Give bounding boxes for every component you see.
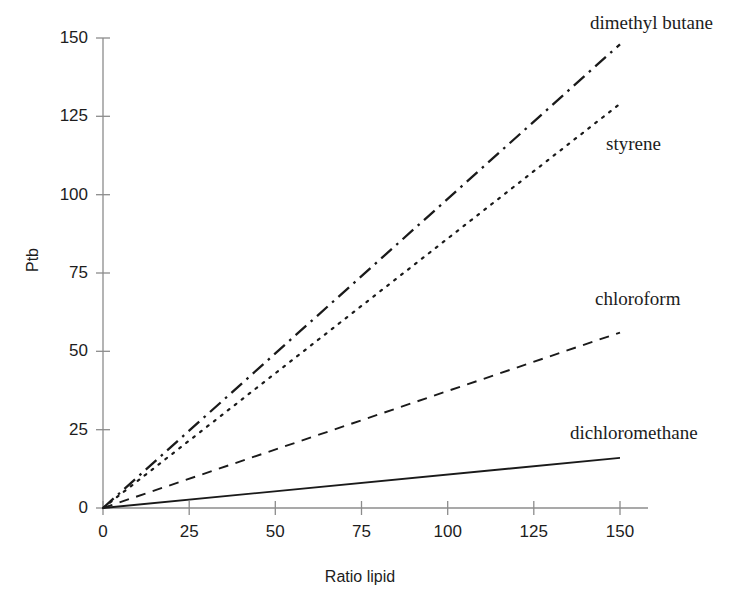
x-tick-label-150: 150 — [606, 522, 634, 542]
y-tick-label-25: 25 — [38, 420, 88, 440]
series-line-dichloromethane — [103, 458, 620, 508]
chart-container: 0 25 50 75 100 125 150 0 25 50 75 100 12… — [0, 0, 753, 605]
x-tick-label-25: 25 — [180, 522, 199, 542]
series-label-dichloromethane: dichloromethane — [570, 422, 698, 444]
y-axis-title: Ptb — [24, 248, 42, 272]
y-tick-label-150: 150 — [38, 28, 88, 48]
x-axis-title: Ratio lipid — [325, 568, 395, 586]
series-lines — [103, 44, 620, 508]
series-line-chloroform — [103, 333, 620, 508]
x-tick-label-75: 75 — [352, 522, 371, 542]
series-line-dimethyl-butane — [103, 44, 620, 508]
x-tick-label-50: 50 — [266, 522, 285, 542]
x-tick-label-100: 100 — [434, 522, 462, 542]
x-tick-label-125: 125 — [520, 522, 548, 542]
y-tick-label-100: 100 — [38, 185, 88, 205]
y-tick-label-50: 50 — [38, 341, 88, 361]
y-tick-label-75: 75 — [38, 263, 88, 283]
series-line-styrene — [103, 104, 620, 508]
x-tick-label-0: 0 — [98, 522, 107, 542]
series-label-styrene: styrene — [606, 133, 661, 155]
y-tick-label-125: 125 — [38, 106, 88, 126]
series-label-dimethyl-butane: dimethyl butane — [590, 12, 713, 34]
series-label-chloroform: chloroform — [595, 288, 680, 310]
y-tick-label-0: 0 — [38, 498, 88, 518]
